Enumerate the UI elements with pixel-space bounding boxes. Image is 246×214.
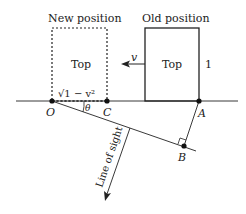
height-label: 1 (205, 58, 212, 71)
point-o-label: O (46, 106, 55, 119)
top-old-label: Top (162, 58, 182, 71)
point-b-label: B (177, 151, 186, 164)
point-a-dot (196, 98, 201, 103)
point-o-dot (49, 98, 54, 103)
old-position-label: Old position (142, 12, 210, 25)
sqrt-expression-label: √1 − v² (58, 88, 95, 99)
point-c-label: C (103, 106, 112, 119)
ob-line (52, 101, 196, 151)
velocity-label: v (131, 51, 138, 64)
theta-arc (83, 101, 84, 112)
top-new-label: Top (71, 58, 91, 71)
theta-label: θ (85, 103, 91, 113)
point-a-label: A (197, 107, 206, 120)
relativity-diagram: New position Old position Top Top v 1 √1… (0, 0, 246, 214)
new-position-label: New position (48, 12, 122, 25)
ab-line (184, 101, 199, 146)
point-c-dot (104, 98, 109, 103)
point-b-dot (181, 143, 186, 148)
